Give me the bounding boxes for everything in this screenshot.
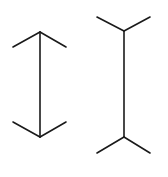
left-bottom-fin-right [40, 122, 66, 137]
muller-lyer-diagram [0, 0, 168, 177]
left-top-fin-left [13, 32, 40, 47]
left-figure-arrowheads [13, 32, 66, 137]
right-top-fin-left [97, 17, 124, 31]
right-bottom-fin-right [124, 137, 150, 153]
left-top-fin-right [40, 32, 66, 47]
right-figure-tails [97, 17, 150, 153]
right-top-fin-right [124, 17, 150, 31]
right-bottom-fin-left [97, 137, 124, 153]
left-bottom-fin-left [13, 122, 40, 137]
